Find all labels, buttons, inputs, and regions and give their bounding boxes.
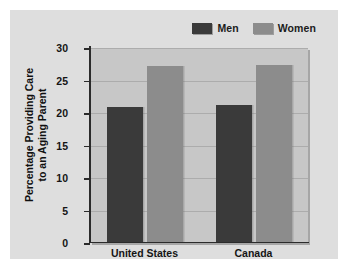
y-axis-tick-mark bbox=[84, 48, 90, 50]
x-axis-label: United States bbox=[111, 247, 178, 259]
y-axis-tick-mark bbox=[84, 113, 90, 115]
y-axis-tick-label: 5 bbox=[62, 205, 68, 217]
y-axis-title-line1: Percentage Providing Care bbox=[23, 67, 36, 201]
bar-men-united-states bbox=[107, 107, 143, 243]
legend-item-men: Men bbox=[192, 22, 238, 34]
y-axis-tick-label: 10 bbox=[56, 172, 68, 184]
y-axis-tick-label: 30 bbox=[56, 42, 68, 54]
x-axis-label: Canada bbox=[235, 247, 273, 259]
y-axis-tick-label: 15 bbox=[56, 140, 68, 152]
legend-swatch-men bbox=[192, 23, 212, 34]
gridline bbox=[90, 48, 308, 49]
bar-men-canada bbox=[216, 105, 252, 243]
chart-figure: Men Women Percentage Providing Care to a… bbox=[10, 10, 338, 259]
chart-legend: Men Women bbox=[10, 22, 338, 34]
legend-swatch-women bbox=[253, 23, 273, 34]
y-axis-tick-mark bbox=[84, 178, 90, 180]
legend-label-women: Women bbox=[278, 22, 316, 34]
y-axis-line bbox=[89, 46, 91, 243]
y-axis-tick-mark bbox=[84, 146, 90, 148]
y-axis-tick-label: 20 bbox=[56, 107, 68, 119]
y-axis-tick-label: 0 bbox=[62, 237, 68, 249]
y-axis-tick-mark bbox=[84, 243, 90, 245]
legend-label-men: Men bbox=[217, 22, 238, 34]
legend-item-women: Women bbox=[253, 22, 316, 34]
y-axis-tick-label: 25 bbox=[56, 75, 68, 87]
x-axis-line bbox=[89, 242, 309, 244]
plot-wrapper: 051015202530United StatesCanada bbox=[72, 48, 308, 243]
plot-area bbox=[90, 48, 308, 243]
y-axis-title-line2: to an Aging Parent bbox=[36, 67, 49, 201]
bar-women-canada bbox=[256, 65, 292, 243]
y-axis-title: Percentage Providing Care to an Aging Pa… bbox=[23, 67, 49, 201]
y-axis-tick-mark bbox=[84, 211, 90, 213]
y-axis-tick-mark bbox=[84, 81, 90, 83]
bar-women-united-states bbox=[147, 66, 183, 243]
